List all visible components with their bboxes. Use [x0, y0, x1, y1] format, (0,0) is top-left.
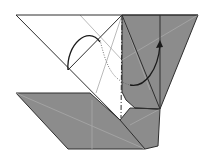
origami-diagram — [0, 0, 214, 160]
diagram-svg — [0, 0, 214, 160]
